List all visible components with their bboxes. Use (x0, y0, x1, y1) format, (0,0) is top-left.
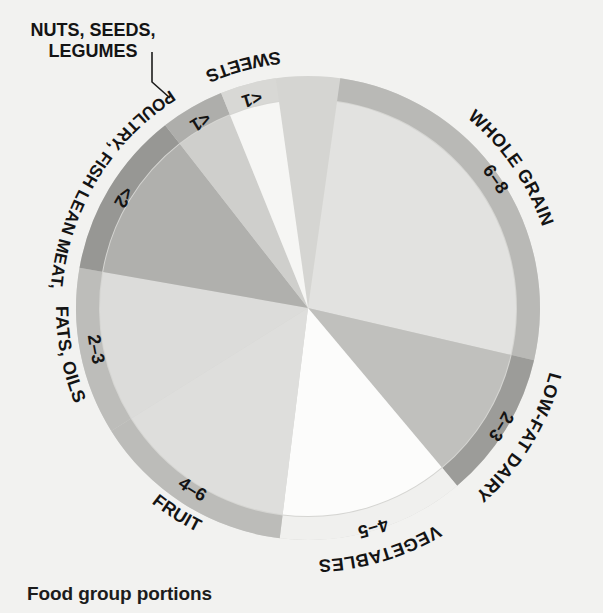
nuts-label-line-1: NUTS, SEEDS, (18, 20, 168, 41)
chart-caption: Food group portions (27, 583, 212, 605)
nuts-seeds-legumes-external-label: NUTS, SEEDS,LEGUMES (18, 20, 168, 62)
food-group-portions-pie-chart: WHOLE GRAIN6–8LOW-FAT DAIRY2–3VEGETABLES… (0, 0, 603, 613)
nuts-label-line-2: LEGUMES (18, 41, 168, 62)
chart-stage: WHOLE GRAIN6–8LOW-FAT DAIRY2–3VEGETABLES… (0, 0, 603, 613)
